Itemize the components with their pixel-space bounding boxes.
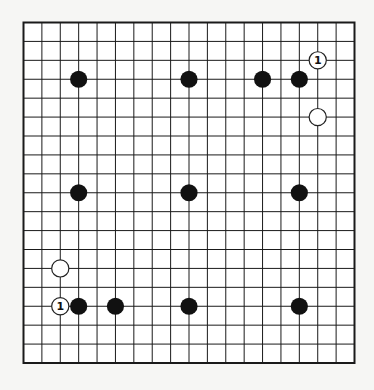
move-number-label: 1 [314, 54, 322, 67]
black-stone [180, 298, 197, 315]
black-stone-icon [70, 71, 87, 88]
black-stone [70, 298, 87, 315]
black-stone [291, 298, 308, 315]
white-stone [309, 108, 326, 125]
black-stone [291, 71, 308, 88]
white-stone-labeled: 1 [309, 52, 326, 69]
white-stone-icon [309, 108, 326, 125]
black-stone-icon [107, 298, 124, 315]
black-stone [180, 71, 197, 88]
black-stone-icon [70, 298, 87, 315]
white-stone-icon [52, 260, 69, 277]
black-stone [254, 71, 271, 88]
black-stone [107, 298, 124, 315]
black-stone-icon [70, 184, 87, 201]
black-stone [70, 184, 87, 201]
move-number-label: 1 [56, 300, 64, 313]
black-stone-icon [180, 298, 197, 315]
white-stone [52, 260, 69, 277]
go-board[interactable]: 11 [0, 0, 374, 390]
black-stone-icon [180, 71, 197, 88]
black-stone-icon [291, 184, 308, 201]
black-stone-icon [291, 71, 308, 88]
black-stone [180, 184, 197, 201]
black-stone [70, 71, 87, 88]
black-stone-icon [180, 184, 197, 201]
white-stone-labeled: 1 [52, 298, 69, 315]
black-stone-icon [291, 298, 308, 315]
black-stone-icon [254, 71, 271, 88]
black-stone [291, 184, 308, 201]
